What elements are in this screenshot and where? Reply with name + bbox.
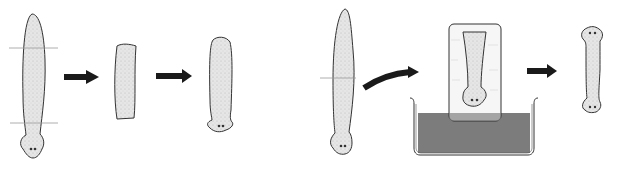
gel-block xyxy=(449,24,501,121)
whole-worm-two-cuts xyxy=(9,14,58,158)
middle-fragment xyxy=(115,44,136,119)
diagram-canvas xyxy=(0,0,620,169)
arrow-3 xyxy=(527,64,557,78)
whole-worm-one-cut xyxy=(320,9,356,154)
arrow-2 xyxy=(156,69,192,83)
regenerated-worm-two-heads xyxy=(582,27,603,113)
regenerated-worm-single-head xyxy=(208,37,233,132)
arrow-1 xyxy=(64,70,99,84)
curved-arrow xyxy=(364,66,419,88)
